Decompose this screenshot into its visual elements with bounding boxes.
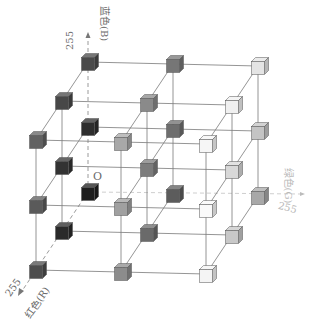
color-cube-r1-g1-b1 [141, 160, 158, 177]
color-cube-r0-g2-b1 [252, 123, 269, 140]
blue-axis-label: 蓝色(B) [98, 6, 113, 41]
color-cube-r0-g0-b0 [82, 184, 99, 201]
color-cube-r1-g0-b2 [56, 93, 73, 110]
color-cube-r2-g0-b1 [30, 197, 47, 214]
color-cube-r0-g1-b0 [167, 186, 184, 203]
color-cube-r1-g0-b0 [56, 223, 73, 240]
color-cube-r1-g1-b0 [141, 225, 158, 242]
color-cube-r1-g2-b0 [226, 227, 243, 244]
blue-axis-max-label: 255 [64, 31, 75, 50]
color-cube-r0-g1-b2 [167, 56, 184, 73]
origin-label: O [93, 170, 102, 183]
color-cube-r1-g0-b1 [56, 158, 73, 175]
color-cube-r2-g2-b0 [200, 266, 217, 283]
color-cube-r1-g1-b2 [141, 95, 158, 112]
color-cube-r2-g0-b2 [30, 132, 47, 149]
color-cube-r2-g1-b1 [115, 199, 132, 216]
red-axis-arrow-icon [18, 288, 24, 296]
color-cube-r0-g2-b2 [252, 58, 269, 75]
color-cube-r2-g1-b0 [115, 264, 132, 281]
blue-axis-arrow-icon [86, 32, 91, 38]
color-cube-r2-g2-b1 [200, 201, 217, 218]
green-axis-label: 绿色(G) [282, 168, 297, 204]
color-cube-r2-g2-b2 [200, 136, 217, 153]
color-cube-r0-g2-b0 [252, 188, 269, 205]
color-cube-r2-g1-b2 [115, 134, 132, 151]
green-axis-arrow-icon [300, 192, 305, 196]
color-cube-r0-g0-b2 [82, 54, 99, 71]
color-cube-r0-g1-b1 [167, 121, 184, 138]
color-cube-r1-g2-b1 [226, 162, 243, 179]
color-cube-r2-g0-b0 [30, 262, 47, 279]
cube-lattice [0, 0, 318, 320]
color-cube-r1-g2-b2 [226, 97, 243, 114]
rgb-cube-diagram: 255 蓝色(B) O 绿色(G) 255 255 红色(R) [0, 0, 318, 320]
color-cube-r0-g0-b1 [82, 119, 99, 136]
